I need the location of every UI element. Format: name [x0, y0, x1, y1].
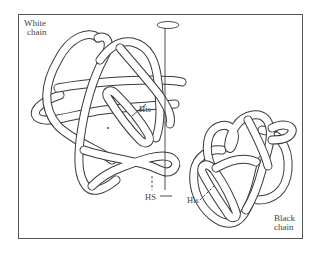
his-label-black: His: [187, 195, 199, 205]
atom-dot: [275, 131, 277, 133]
diagram-canvas: His HS His White chain Black chain: [0, 0, 320, 253]
atom-dot: [107, 127, 109, 129]
his-label-white: His: [139, 104, 151, 114]
white-chain-label-line2: chain: [27, 27, 47, 37]
black-chain-label-line2: chain: [274, 222, 294, 232]
protein-chain-diagram: His HS His White chain Black chain: [0, 0, 320, 253]
hs-label: HS: [145, 192, 156, 202]
